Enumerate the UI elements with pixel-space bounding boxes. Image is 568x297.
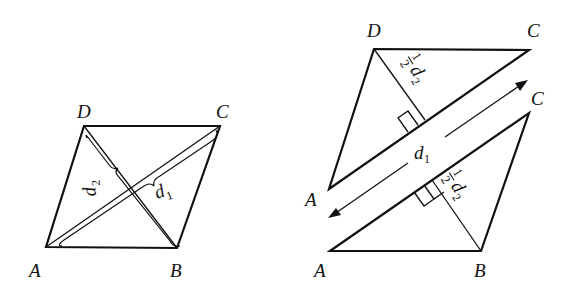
label-d2-left: d 2 [78,179,104,197]
label-d-right: D [366,20,381,41]
label-a-right-lower: A [312,260,326,281]
upper-triangle-acd [329,49,529,189]
label-b-left: B [170,260,182,281]
label-a-right-upper: A [303,189,317,210]
arrow-d1-right-segment [445,84,522,137]
svg-text:1: 1 [424,152,430,166]
svg-text:2: 2 [89,179,103,186]
label-c-right-upper: C [527,20,540,41]
rhombus-area-diagram: D C A B d 2 d 1 d 1 1 [0,0,568,297]
svg-text:1: 1 [164,188,174,203]
label-c-right-lower: C [531,88,544,109]
arrow-d1-left-segment [333,163,408,215]
svg-text:d: d [414,142,424,163]
label-b-right: B [474,260,486,281]
label-a-left: A [27,260,41,281]
diagonal-ac [46,126,220,247]
label-c-left: C [216,101,229,122]
lower-triangle-abc [330,113,529,251]
arrow-head-left-icon [328,208,341,218]
arrow-head-right-icon [515,80,528,91]
label-d-left: D [76,101,91,122]
left-rhombus-figure: D C A B d 2 d 1 [27,101,229,281]
label-d1-left: d 1 [151,178,175,207]
label-half-d2-upper: 1 2 d 2 [396,49,435,88]
label-half-d2-lower: 1 2 d 2 [437,165,476,204]
label-d1-right: d 1 [414,142,430,166]
right-split-figure: d 1 1 2 d 2 1 2 d 2 D C C A A B [303,20,544,281]
